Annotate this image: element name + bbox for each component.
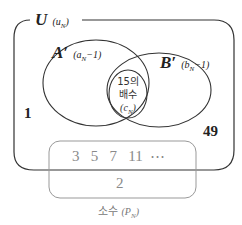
intersection-line-3: (cN) — [110, 101, 146, 119]
universe-name: U — [35, 10, 47, 29]
intersection-line-1: 15의 — [110, 75, 146, 88]
prime-7: 7 — [110, 148, 118, 164]
universe-label: U (uN) — [35, 11, 69, 30]
set-a-count: (aN−1) — [73, 49, 101, 60]
prime-11: 11 — [128, 148, 142, 164]
set-a-name: A′ — [52, 43, 68, 62]
outside-number-49: 49 — [203, 124, 218, 139]
set-a-label: A′ (aN−1) — [52, 44, 101, 63]
primes-list: 3 5 7 11 ⋯ — [72, 149, 165, 164]
intersection-line-2: 배수 — [110, 88, 146, 101]
outside-number-1: 1 — [24, 106, 32, 121]
set-b-count: (bN−1) — [181, 59, 209, 70]
prime-5: 5 — [91, 148, 99, 164]
universe-subscript: (uN) — [52, 16, 68, 27]
prime-2: 2 — [116, 176, 124, 191]
set-b-label: B′ (bN−1) — [160, 54, 209, 73]
set-b-name: B′ — [160, 53, 176, 72]
intersection-label: 15의 배수 (cN) — [110, 75, 146, 119]
prime-ellipsis: ⋯ — [150, 148, 165, 164]
prime-3: 3 — [72, 148, 80, 164]
primes-caption: 소수 (PN) — [98, 206, 139, 220]
